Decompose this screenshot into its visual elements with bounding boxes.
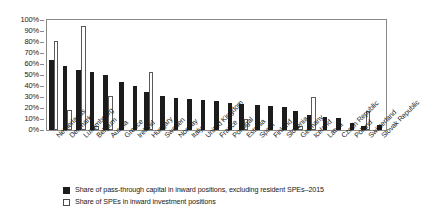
y-axis-tick-mark bbox=[40, 130, 44, 131]
y-axis-tick-mark bbox=[40, 86, 44, 87]
y-axis-tick-label: 60% bbox=[25, 60, 39, 68]
y-axis: 100%90%80%70%60%50%40%30%20%10%0% bbox=[0, 13, 44, 137]
y-axis-tick-label: 80% bbox=[25, 38, 39, 46]
legend-item-pass-through: Share of pass-through capital in inward … bbox=[63, 185, 393, 195]
bar-group bbox=[373, 20, 387, 130]
bar-group bbox=[250, 20, 264, 130]
bar-group bbox=[142, 20, 156, 130]
y-axis-tick-label: 100% bbox=[21, 16, 39, 24]
bar-open bbox=[54, 41, 59, 130]
bar-group bbox=[128, 20, 142, 130]
bar-group bbox=[332, 20, 346, 130]
bar-group bbox=[237, 20, 251, 130]
bar-group bbox=[47, 20, 61, 130]
bars-layer bbox=[47, 20, 386, 130]
legend-label-spes: Share of SPEs in inward investment posit… bbox=[75, 198, 216, 206]
y-axis-tick-mark bbox=[40, 64, 44, 65]
y-axis-tick-label: 20% bbox=[25, 104, 39, 112]
y-axis-tick-mark bbox=[40, 31, 44, 32]
bar-group bbox=[196, 20, 210, 130]
y-axis-tick-mark bbox=[40, 42, 44, 43]
y-axis-tick-mark bbox=[40, 108, 44, 109]
y-axis-tick-label: 50% bbox=[25, 71, 39, 79]
y-axis-tick-label: 40% bbox=[25, 82, 39, 90]
bar-group bbox=[156, 20, 170, 130]
y-axis-tick-label: 90% bbox=[25, 27, 39, 35]
y-axis-tick-mark bbox=[40, 119, 44, 120]
bar-dark bbox=[201, 100, 206, 130]
chart-legend: Share of pass-through capital in inward … bbox=[63, 185, 393, 209]
y-axis-tick-label: 30% bbox=[25, 93, 39, 101]
bar-group bbox=[169, 20, 183, 130]
bar-group bbox=[115, 20, 129, 130]
legend-swatch-dark-icon bbox=[63, 187, 70, 194]
legend-item-spes: Share of SPEs in inward investment posit… bbox=[63, 197, 393, 207]
bar-group bbox=[345, 20, 359, 130]
y-axis-tick-label: 0% bbox=[29, 126, 39, 134]
y-axis-tick-mark bbox=[40, 53, 44, 54]
legend-swatch-open-icon bbox=[63, 199, 70, 206]
y-axis-tick-label: 70% bbox=[25, 49, 39, 57]
y-axis-tick-mark bbox=[40, 97, 44, 98]
y-axis-tick-mark bbox=[40, 20, 44, 21]
legend-label-pass-through: Share of pass-through capital in inward … bbox=[75, 186, 324, 194]
chart-container: 100%90%80%70%60%50%40%30%20%10%0% Nether… bbox=[0, 0, 434, 216]
bar-group bbox=[61, 20, 75, 130]
y-axis-tick-label: 10% bbox=[25, 115, 39, 123]
bar-group bbox=[278, 20, 292, 130]
bar-group bbox=[183, 20, 197, 130]
y-axis-tick-mark bbox=[40, 75, 44, 76]
bar-group bbox=[264, 20, 278, 130]
